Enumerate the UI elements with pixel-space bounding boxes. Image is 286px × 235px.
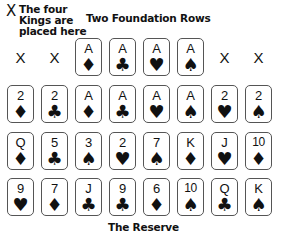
foundation-row: 2♦2♣A♦A♣A♥A♠2♥2♠ xyxy=(0,85,286,125)
spade-suit-icon: ♠ xyxy=(250,196,266,214)
playing-card[interactable]: 7♦ xyxy=(41,178,68,216)
diamond-suit-icon: ♦ xyxy=(80,56,96,74)
playing-card[interactable]: 2♥ xyxy=(211,85,238,123)
playing-card[interactable]: A♥ xyxy=(143,38,170,76)
playing-card[interactable]: 2♣ xyxy=(41,85,68,123)
heart-suit-icon: ♥ xyxy=(216,103,232,121)
empty-slot-x: X xyxy=(7,38,34,76)
spade-suit-icon: ♠ xyxy=(250,103,266,121)
club-suit-icon: ♣ xyxy=(46,150,62,168)
club-suit-icon: ♣ xyxy=(114,196,130,214)
empty-slot-x: X xyxy=(41,38,68,76)
club-suit-icon: ♣ xyxy=(216,196,232,214)
playing-card[interactable]: J♥ xyxy=(211,132,238,170)
diamond-suit-icon: ♦ xyxy=(46,196,62,214)
playing-card[interactable]: A♣ xyxy=(109,85,136,123)
playing-card[interactable]: 9♥ xyxy=(7,178,34,216)
playing-card[interactable]: A♠ xyxy=(177,85,204,123)
playing-card[interactable]: A♥ xyxy=(143,85,170,123)
playing-card[interactable]: 2♦ xyxy=(7,85,34,123)
playing-card[interactable]: 7♠ xyxy=(143,132,170,170)
playing-card[interactable]: Q♦ xyxy=(7,132,34,170)
playing-card[interactable]: 3♠ xyxy=(75,132,102,170)
playing-card[interactable]: A♠ xyxy=(177,38,204,76)
spade-suit-icon: ♠ xyxy=(148,150,164,168)
reserve-row-1: Q♦5♣3♠2♥7♠K♦J♥10♦ xyxy=(0,132,286,172)
playing-card[interactable]: 9♣ xyxy=(109,178,136,216)
playing-card[interactable]: 10♠ xyxy=(177,178,204,216)
diamond-suit-icon: ♦ xyxy=(182,150,198,168)
spade-suit-icon: ♠ xyxy=(80,150,96,168)
club-suit-icon: ♣ xyxy=(46,103,62,121)
club-suit-icon: ♣ xyxy=(114,56,130,74)
diamond-suit-icon: ♦ xyxy=(148,196,164,214)
empty-slot-x: X xyxy=(211,38,238,76)
spade-suit-icon: ♠ xyxy=(182,56,198,74)
empty-slot-x: X xyxy=(245,38,272,76)
playing-card[interactable]: 5♣ xyxy=(41,132,68,170)
club-suit-icon: ♣ xyxy=(114,103,130,121)
heart-suit-icon: ♥ xyxy=(216,150,232,168)
kings-note-line-3: placed here xyxy=(19,26,86,37)
diamond-suit-icon: ♦ xyxy=(12,103,28,121)
spade-suit-icon: ♠ xyxy=(182,103,198,121)
playing-card[interactable]: A♦ xyxy=(75,85,102,123)
diamond-suit-icon: ♦ xyxy=(80,103,96,121)
reserve-row-2: 9♥7♦J♣9♣6♦10♠Q♣K♠ xyxy=(0,178,286,218)
heart-suit-icon: ♥ xyxy=(114,150,130,168)
foundation-rows-title: Two Foundation Rows xyxy=(86,12,211,24)
playing-card[interactable]: Q♣ xyxy=(211,178,238,216)
playing-card[interactable]: 6♦ xyxy=(143,178,170,216)
king-row: XXA♦A♣A♥A♠XX xyxy=(0,38,286,78)
reserve-title: The Reserve xyxy=(108,221,179,233)
kings-marker-x: X xyxy=(6,4,16,19)
kings-placement-note: The four Kings are placed here xyxy=(19,4,86,37)
heart-suit-icon: ♥ xyxy=(12,196,28,214)
diamond-suit-icon: ♦ xyxy=(250,150,266,168)
playing-card[interactable]: K♠ xyxy=(245,178,272,216)
spade-suit-icon: ♠ xyxy=(182,196,198,214)
playing-card[interactable]: 2♥ xyxy=(109,132,136,170)
playing-card[interactable]: 2♠ xyxy=(245,85,272,123)
diamond-suit-icon: ♦ xyxy=(12,150,28,168)
heart-suit-icon: ♥ xyxy=(148,103,164,121)
playing-card[interactable]: A♣ xyxy=(109,38,136,76)
playing-card[interactable]: A♦ xyxy=(75,38,102,76)
club-suit-icon: ♣ xyxy=(80,196,96,214)
playing-card[interactable]: 10♦ xyxy=(245,132,272,170)
playing-card[interactable]: J♣ xyxy=(75,178,102,216)
playing-card[interactable]: K♦ xyxy=(177,132,204,170)
heart-suit-icon: ♥ xyxy=(148,56,164,74)
